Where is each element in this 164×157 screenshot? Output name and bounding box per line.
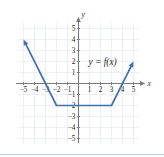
x-axis-arrowhead-icon: [140, 81, 145, 86]
y-axis-arrowhead-icon: [76, 17, 81, 22]
y-tick-label: 2: [72, 58, 76, 66]
x-tick-label: −2: [53, 86, 61, 94]
x-tick-label: 5: [132, 86, 136, 94]
y-tick-label: 5: [72, 25, 76, 33]
y-tick-label: −1: [68, 91, 76, 99]
function-label: y = f(x): [88, 57, 117, 68]
y-tick-labels: 54321−1−2−3−4−5: [68, 25, 76, 143]
x-tick-label: −5: [20, 86, 28, 94]
y-tick-label: −3: [68, 113, 76, 121]
x-tick-label: 3: [110, 86, 114, 94]
x-axis-label: x: [147, 79, 152, 88]
y-tick-label: −5: [68, 135, 76, 143]
y-tick-label: 1: [72, 69, 76, 77]
x-tick-label: 2: [99, 86, 103, 94]
axes: [16, 17, 145, 143]
y-tick-label: 4: [72, 36, 76, 44]
x-tick-label: −4: [31, 86, 39, 94]
x-tick-label: 1: [88, 86, 92, 94]
y-tick-label: −4: [68, 124, 76, 132]
footer-divider: [0, 154, 164, 155]
y-axis-label: y: [81, 10, 86, 19]
graph-figure: −5−4−3−2−11234554321−1−2−3−4−5xyy = f(x): [0, 0, 164, 157]
y-tick-label: 3: [72, 47, 76, 55]
